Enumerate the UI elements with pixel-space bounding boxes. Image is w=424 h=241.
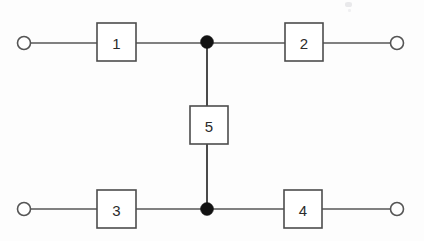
block-4-label: 4 bbox=[299, 202, 307, 219]
diagram-canvas-svg: 1 2 5 3 4 bbox=[0, 0, 424, 241]
block-2-label: 2 bbox=[300, 35, 308, 52]
junction-bottom[interactable] bbox=[201, 203, 214, 216]
block-5-label: 5 bbox=[205, 118, 213, 135]
junction-top[interactable] bbox=[201, 36, 214, 49]
block-3-label: 3 bbox=[112, 202, 120, 219]
terminal-top-left[interactable] bbox=[18, 37, 31, 50]
terminal-bottom-left[interactable] bbox=[18, 203, 31, 216]
block-1-label: 1 bbox=[112, 35, 120, 52]
terminal-top-right[interactable] bbox=[391, 37, 404, 50]
terminal-bottom-right[interactable] bbox=[391, 203, 404, 216]
reliability-block-diagram: 1 2 5 3 4 bbox=[0, 0, 424, 241]
